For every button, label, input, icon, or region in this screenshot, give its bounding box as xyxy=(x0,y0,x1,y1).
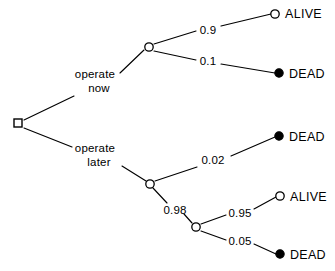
chance-node-operate-later[interactable] xyxy=(146,180,154,188)
edge-chance-later-to-dead xyxy=(155,167,197,181)
edge-root-to-chance-now-upper xyxy=(120,50,144,73)
decision-tree-canvas: operate now operate later 0.9 0.1 0.02 0… xyxy=(0,0,335,271)
decision-tree-diagram: operate now operate later 0.9 0.1 0.02 0… xyxy=(0,0,335,271)
edge-chance-later-to-survive xyxy=(153,188,167,203)
outcome-label-dead-later-final: DEAD xyxy=(290,248,326,262)
probability-label-alive-later: 0.95 xyxy=(228,207,251,219)
edge-survive-to-dead xyxy=(201,231,226,240)
probability-label-survive-later: 0.98 xyxy=(163,204,186,216)
edge-survive-to-dead-2 xyxy=(254,244,276,254)
outcome-label-alive-later: ALIVE xyxy=(290,190,327,204)
decision-label-operate-now-line1: operate xyxy=(75,68,115,80)
decision-label-operate-later-line2: later xyxy=(87,156,110,168)
edge-chance-now-to-dead xyxy=(154,51,196,60)
edge-survive-to-alive-2 xyxy=(254,197,276,209)
outcome-label-dead-now: DEAD xyxy=(289,67,325,81)
decision-label-operate-later-line1: operate xyxy=(75,142,115,154)
terminal-node-dead-later-final[interactable] xyxy=(276,250,284,258)
chance-node-operate-now[interactable] xyxy=(145,43,153,51)
probability-label-alive-now: 0.9 xyxy=(200,24,217,36)
terminal-node-dead-now[interactable] xyxy=(275,69,283,77)
terminal-node-alive-now[interactable] xyxy=(271,10,279,18)
probability-label-dead-later-final: 0.05 xyxy=(228,235,251,247)
edge-root-to-chance-later-lower xyxy=(122,166,146,181)
terminal-node-dead-later-immediate[interactable] xyxy=(275,132,283,140)
chance-node-later-survival[interactable] xyxy=(192,223,200,231)
edge-survive-to-alive xyxy=(201,215,226,224)
edge-chance-now-to-dead-2 xyxy=(221,64,275,73)
edge-root-to-chance-later-upper xyxy=(24,128,72,147)
edge-root-to-chance-now-lower xyxy=(24,96,74,120)
outcome-label-dead-later-immediate: DEAD xyxy=(289,130,325,144)
root-decision-node[interactable] xyxy=(14,119,22,127)
probability-label-dead-later-immediate: 0.02 xyxy=(201,154,224,166)
terminal-node-alive-later[interactable] xyxy=(276,192,284,200)
edge-chance-now-to-alive-2 xyxy=(221,14,271,26)
outcome-label-alive-now: ALIVE xyxy=(285,7,322,21)
decision-label-operate-now-line2: now xyxy=(88,82,110,94)
edge-chance-now-to-alive xyxy=(154,31,196,44)
edge-chance-later-to-dead-2 xyxy=(231,137,275,156)
probability-label-dead-now: 0.1 xyxy=(200,55,217,67)
